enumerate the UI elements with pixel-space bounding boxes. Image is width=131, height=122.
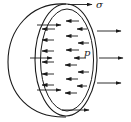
- shell-back-outline: [8, 4, 66, 117]
- outward-arrows: [97, 31, 123, 83]
- pressure-arrows: [42, 21, 89, 93]
- shell-pressure-diagram: σ p: [0, 0, 131, 122]
- shell-rim-inner: [41, 9, 94, 111]
- pressure-label: p: [84, 47, 91, 58]
- sigma-label: σ: [96, 0, 104, 10]
